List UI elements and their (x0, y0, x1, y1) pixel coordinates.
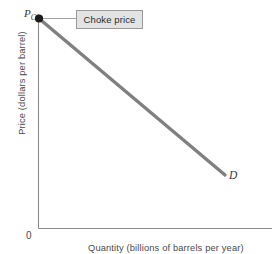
demand-curve-line (39, 19, 225, 176)
price-subscript: C (31, 13, 36, 22)
choke-price-marker (35, 14, 43, 22)
x-axis-label: Quantity (billions of barrels per year) (88, 243, 244, 253)
demand-curve-label: D (229, 169, 237, 181)
origin-label: 0 (26, 230, 32, 241)
y-axis-label: Price (dollars per barrel) (17, 18, 27, 148)
choke-price-callout-box: Choke price (76, 10, 143, 29)
choke-price-callout-text: Choke price (84, 14, 136, 25)
demand-curve-figure: PC Choke price D 0 Price (dollars per ba… (0, 0, 272, 254)
plot-area (0, 0, 272, 254)
